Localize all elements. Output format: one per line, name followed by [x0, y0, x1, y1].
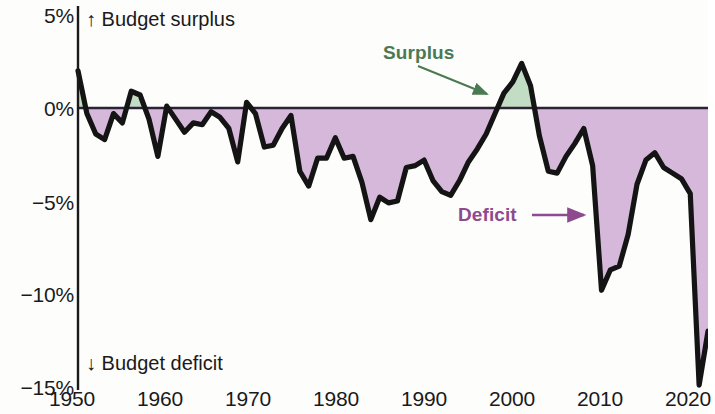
x-axis-tick-label: 1970 — [204, 387, 292, 411]
x-axis-tick-label: 2020 — [644, 387, 715, 411]
surplus-annotation-arrow — [418, 66, 487, 94]
x-axis-tick-label: 1980 — [292, 387, 380, 411]
x-axis-tick-label: 1990 — [380, 387, 468, 411]
y-axis-tick-label: 0% — [44, 97, 74, 121]
y-axis-tick-label: −5% — [32, 191, 74, 215]
x-axis-tick-label: 2010 — [556, 387, 644, 411]
x-axis-tick-label: 2000 — [468, 387, 556, 411]
x-axis-tick-label: 1960 — [116, 387, 204, 411]
surplus-annotation-label: Surplus — [383, 42, 454, 64]
budget-surplus-axis-note: ↑ Budget surplus — [86, 8, 235, 31]
x-axis-tick-label: 1950 — [28, 387, 116, 411]
y-axis-tick-label: −10% — [21, 283, 75, 307]
budget-deficit-axis-note: ↓ Budget deficit — [86, 352, 223, 375]
y-axis-tick-label: 5% — [44, 4, 74, 28]
deficit-annotation-label: Deficit — [458, 204, 517, 226]
